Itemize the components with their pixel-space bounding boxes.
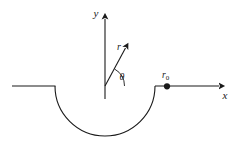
polar-coordinate-diagram: y x r θ r0 — [0, 0, 238, 145]
r0-subscript: 0 — [166, 74, 170, 82]
radial-vector-label: r — [117, 41, 121, 52]
angle-theta-label: θ — [120, 71, 125, 82]
y-axis-label: y — [93, 7, 99, 19]
x-axis-label: x — [222, 89, 228, 101]
r0-point-marker — [164, 83, 170, 89]
figure-container: y x r θ r0 — [0, 0, 238, 145]
r0-point-label: r0 — [162, 70, 170, 82]
